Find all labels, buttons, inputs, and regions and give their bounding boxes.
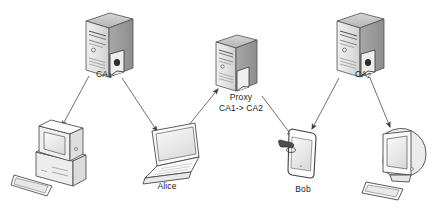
node-bob[interactable]: [278, 129, 316, 178]
label-proxy-mapping: CA1-> CA2: [219, 103, 263, 114]
tablet-device-icon: [278, 129, 316, 178]
label-ca2: CA2: [355, 70, 371, 80]
laptop-icon: [143, 123, 199, 184]
node-alice[interactable]: [143, 123, 199, 184]
all-in-one-monitor-icon: [362, 128, 426, 200]
diagram-canvas: CA1 Proxy CA1-> CA2 CA2 Alice Bob: [0, 0, 443, 209]
label-bob: Bob: [295, 185, 311, 195]
edge-ca1-to-desktop: [62, 76, 89, 126]
label-proxy: Proxy CA1-> CA2: [219, 93, 263, 113]
edge-ca1-to-alice: [122, 78, 157, 131]
desktop-computer-crt-icon: [11, 120, 86, 196]
node-imac[interactable]: [362, 128, 426, 200]
label-alice: Alice: [157, 182, 176, 192]
edge-proxy-to-bob: [262, 96, 292, 136]
label-proxy-name: Proxy: [219, 93, 263, 103]
node-ca2[interactable]: [337, 13, 384, 77]
server-tower-with-certificate-icon: [337, 13, 384, 77]
node-proxy[interactable]: [216, 35, 257, 91]
node-ca1[interactable]: [86, 13, 133, 77]
server-tower-with-certificate-icon: [86, 13, 133, 77]
edge-ca2-to-bob: [312, 78, 339, 129]
server-tower-proxy-icon: [216, 35, 257, 91]
node-desktop-pc[interactable]: [11, 120, 86, 196]
label-ca1: CA1: [96, 70, 112, 80]
edge-ca2-to-imac: [370, 78, 390, 127]
